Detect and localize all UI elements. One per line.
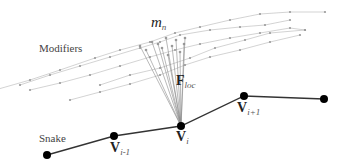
vertex-prev-sub: i-1 (120, 147, 130, 157)
vertex-current-sub: i (186, 136, 189, 146)
force-source-point (175, 39, 178, 42)
modifier-point (119, 65, 121, 67)
modifier-point (89, 74, 91, 76)
snake-line (47, 96, 324, 155)
modifier-mn-label: mn (151, 15, 166, 32)
vertex-prev-label: Vi-1 (110, 141, 130, 157)
force-source-point (139, 45, 142, 48)
modifier-point (99, 91, 101, 93)
force-source-point (184, 37, 187, 40)
modifier-point (324, 11, 326, 13)
modifier-point (79, 65, 81, 67)
modifier-point (174, 49, 176, 51)
vertex-prev-base: V (110, 140, 120, 155)
modifier-point (259, 32, 261, 34)
modifier-mn-sub: n (162, 22, 167, 32)
vertex-next-base: V (237, 100, 247, 115)
force-loc-base: F (176, 73, 185, 88)
vertex-current-base: V (176, 129, 186, 144)
modifier-point (199, 26, 201, 28)
snake-polyline (43, 92, 328, 159)
modifier-point (239, 26, 241, 28)
modifier-point (209, 29, 211, 31)
modifier-point (244, 39, 246, 41)
modifier-mn-base: m (151, 14, 162, 30)
modifier-point (264, 24, 266, 26)
modifier-point (304, 29, 306, 31)
modifier-point (69, 99, 71, 101)
modifier-point (269, 41, 271, 43)
modifier-point (259, 13, 261, 15)
force-loc-label: Floc (176, 74, 196, 90)
modifier-curve (30, 28, 305, 90)
modifier-point (159, 41, 161, 43)
modifier-point (289, 27, 291, 29)
modifier-point (299, 34, 301, 36)
force-source-point (179, 51, 182, 54)
modifier-point (199, 43, 201, 45)
snake-node (320, 95, 328, 103)
modifier-point (229, 19, 231, 21)
modifier-point (239, 49, 241, 51)
modifier-point (129, 83, 131, 85)
force-source-point (167, 54, 170, 57)
force-source-point (165, 37, 168, 40)
modifier-point (229, 37, 231, 39)
snake-node (240, 92, 248, 100)
force-line (140, 46, 181, 126)
modifier-point (49, 74, 51, 76)
modifier-point (119, 49, 121, 51)
modifier-point (94, 57, 96, 59)
modifier-point (29, 79, 31, 81)
vertex-current-label: Vi (176, 130, 189, 146)
modifier-point (29, 89, 31, 91)
snake-node (43, 151, 51, 159)
modifier-point (19, 84, 21, 86)
modifier-point (59, 69, 61, 71)
snake-label: Snake (39, 133, 66, 144)
modifier-point (289, 11, 291, 13)
modifier-point (209, 56, 211, 58)
modifier-point (269, 32, 271, 34)
modifier-point (289, 19, 291, 21)
modifiers-label: Modifiers (39, 43, 82, 54)
modifier-point (214, 47, 216, 49)
modifier-point (59, 82, 61, 84)
force-source-point (151, 41, 154, 44)
modifier-point (109, 56, 111, 58)
snake-node (110, 132, 118, 140)
modifier-point (184, 64, 186, 66)
modifier-point (179, 34, 181, 36)
vertex-next-label: Vi+1 (237, 101, 260, 117)
modifier-curve (100, 30, 305, 85)
force-source-point (161, 47, 164, 50)
modifier-point (174, 32, 176, 34)
modifier-point (99, 84, 101, 86)
force-source-point (157, 43, 160, 46)
force-loc-sub: loc (185, 80, 196, 90)
modifier-point (189, 57, 191, 59)
force-source-point (145, 49, 148, 52)
force-source-point (171, 45, 174, 48)
modifier-point (129, 74, 131, 76)
modifier-point (159, 74, 161, 76)
vertex-next-sub: i+1 (247, 107, 260, 117)
